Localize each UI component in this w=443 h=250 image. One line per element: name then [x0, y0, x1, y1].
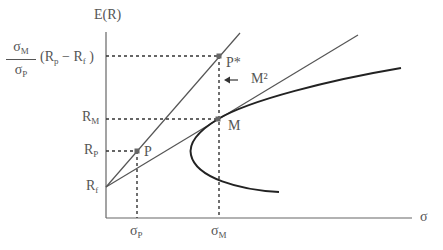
y-tick-scaled-return: σM σP (Rp − Rf )	[6, 40, 36, 79]
diagram-canvas	[0, 0, 443, 250]
point-p-marker	[135, 149, 140, 154]
point-p-star-label: P*	[226, 56, 241, 70]
m2-label: M²	[251, 72, 268, 86]
y-axis-label: E(R)	[94, 8, 121, 22]
point-m-marker	[216, 117, 221, 122]
point-p-label: P	[144, 145, 152, 159]
point-m-label: M	[228, 119, 240, 133]
y-tick-rp: RP	[84, 143, 98, 159]
y-tick-rm: RM	[82, 110, 99, 126]
x-tick-sigma-p: σP	[130, 224, 143, 240]
efficient-frontier-curve	[191, 68, 401, 192]
x-tick-sigma-m: σM	[211, 224, 227, 240]
x-axis-label: σ	[420, 210, 428, 224]
m2-arrow-head-icon	[224, 77, 230, 84]
point-p-star-marker	[217, 54, 222, 59]
y-tick-rf: Rf	[86, 179, 98, 195]
